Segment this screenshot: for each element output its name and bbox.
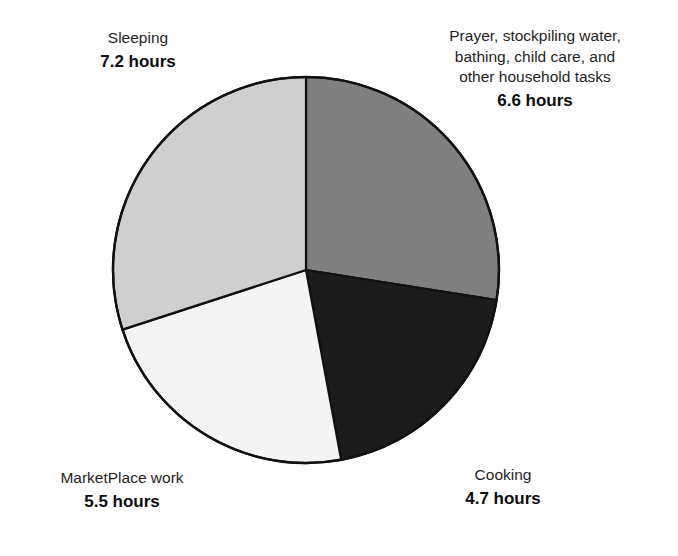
pie-chart — [111, 75, 501, 465]
slice-label-sleeping-name: Sleeping — [33, 28, 243, 49]
pie-chart-figure: Sleeping 7.2 hours Prayer, stockpiling w… — [0, 0, 678, 556]
slice-label-cooking: Cooking 4.7 hours — [396, 465, 610, 510]
slice-label-cooking-value: 4.7 hours — [396, 488, 610, 511]
slice-label-prayer-household-line1: Prayer, stockpiling water, — [402, 26, 668, 47]
slice-label-cooking-name: Cooking — [396, 465, 610, 486]
slice-label-prayer-household-line2: bathing, child care, and — [402, 47, 668, 68]
slice-label-sleeping-value: 7.2 hours — [33, 51, 243, 74]
slice-label-prayer-household: Prayer, stockpiling water, bathing, chil… — [402, 26, 668, 112]
slice-label-sleeping: Sleeping 7.2 hours — [33, 28, 243, 73]
slice-label-marketplace-work: MarketPlace work 5.5 hours — [8, 468, 236, 513]
pie-chart-svg — [111, 75, 501, 465]
slice-label-prayer-household-value: 6.6 hours — [402, 90, 668, 113]
slice-label-prayer-household-line3: other household tasks — [402, 67, 668, 88]
slice-label-marketplace-work-value: 5.5 hours — [8, 491, 236, 514]
slice-label-marketplace-work-name: MarketPlace work — [8, 468, 236, 489]
